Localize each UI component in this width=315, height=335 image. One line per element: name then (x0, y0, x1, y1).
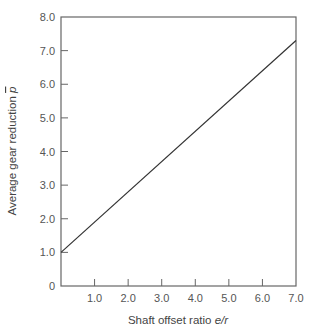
x-axis-title: Shaft offset ratio e/r (128, 314, 229, 326)
y-tick-label: 0 (49, 280, 55, 292)
x-tick-label: 1.0 (87, 292, 102, 304)
y-tick-label: 6.0 (40, 78, 55, 90)
y-tick-label: 5.0 (40, 112, 55, 124)
y-tick-label: 3.0 (40, 179, 55, 191)
x-tick-label: 3.0 (154, 292, 169, 304)
x-tick-label: 4.0 (188, 292, 203, 304)
y-tick-label: 1.0 (40, 246, 55, 258)
chart: 01.02.03.04.05.06.07.08.0 1.02.03.04.05.… (0, 0, 315, 335)
y-tick-label: 2.0 (40, 213, 55, 225)
y-tick-label: 7.0 (40, 45, 55, 57)
x-tick-label: 6.0 (255, 292, 270, 304)
y-tick-label: 4.0 (40, 146, 55, 158)
y-axis-title: Average gear reduction p (6, 86, 18, 216)
plot-frame (61, 17, 296, 286)
y-tick-label: 8.0 (40, 11, 55, 23)
x-tick-label: 7.0 (288, 292, 303, 304)
data-line (61, 41, 296, 253)
x-axis-ticks: 1.02.03.04.05.06.07.0 (87, 279, 304, 304)
x-tick-label: 5.0 (221, 292, 236, 304)
x-tick-label: 2.0 (120, 292, 135, 304)
